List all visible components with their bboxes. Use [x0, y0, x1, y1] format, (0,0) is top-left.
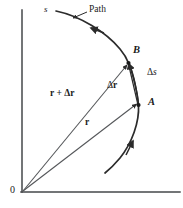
path-label-leader — [73, 12, 87, 18]
r-plus-delta-r-label: r + Δr — [50, 89, 74, 99]
path-label: Path — [89, 5, 106, 15]
arc-length-label: s — [44, 5, 48, 14]
delta-s-label: Δs — [147, 68, 157, 78]
figure-container: s Path B A Δs Δr r + Δr r 0 — [0, 0, 183, 208]
origin-label: 0 — [10, 185, 15, 195]
r-vector-label: r — [85, 118, 89, 128]
r-plus-r2-sym: r — [70, 88, 74, 98]
path-curve-upper — [56, 11, 129, 63]
delta-r-vector — [129, 64, 139, 105]
point-a-marker — [136, 103, 140, 107]
point-b-label: B — [133, 45, 140, 56]
r-plus-operator: + — [54, 88, 64, 98]
vector-path-diagram — [0, 0, 183, 208]
r-vector — [23, 104, 137, 191]
delta-r-label: Δr — [107, 81, 117, 91]
point-a-label: A — [148, 97, 155, 108]
delta-s-symbol: s — [153, 67, 157, 77]
delta-r-symbol: r — [113, 80, 117, 90]
point-b-marker — [126, 61, 130, 65]
